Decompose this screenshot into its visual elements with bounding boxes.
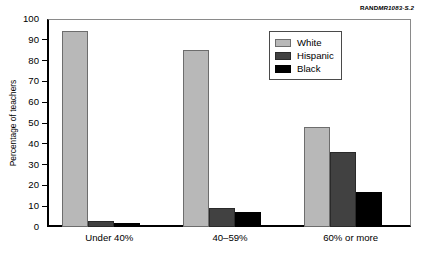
y-axis-tick-mark <box>42 164 47 165</box>
legend-swatch-white <box>275 39 291 47</box>
y-axis-tick: 90 <box>0 34 47 46</box>
y-axis-tick-mark <box>42 143 47 144</box>
y-axis-tick-mark <box>42 102 47 103</box>
legend-swatch-hispanic <box>275 52 291 60</box>
legend-item: White <box>275 36 334 49</box>
y-axis-tick-mark <box>42 39 47 40</box>
bar-chart-figure: RANDMR1083-S.2 Percentage of teachers 10… <box>0 0 426 253</box>
y-axis-tick-label: 10 <box>28 200 39 212</box>
y-axis-tick: 50 <box>0 117 47 129</box>
legend-item: Hispanic <box>275 49 334 62</box>
y-axis-tick: 70 <box>0 75 47 87</box>
y-axis-tick-label: 90 <box>28 34 39 46</box>
y-axis-tick: 10 <box>0 200 47 212</box>
y-axis-tick-mark <box>42 123 47 124</box>
source-code-label: RANDMR1083-S.2 <box>360 4 414 11</box>
y-axis-tick-label: 100 <box>23 13 39 25</box>
bars-layer <box>49 19 411 227</box>
bar-black <box>114 223 140 227</box>
bar-group <box>183 19 261 227</box>
x-axis-label: Under 40% <box>49 232 170 243</box>
y-axis-tick: 20 <box>0 179 47 191</box>
y-axis-tick-label: 70 <box>28 75 39 87</box>
bar-group <box>62 19 140 227</box>
bar-white <box>183 50 209 227</box>
bar-white <box>304 127 330 227</box>
y-axis-tick-mark <box>42 185 47 186</box>
y-axis-tick: 0 <box>0 221 47 233</box>
source-prefix: RAND <box>360 4 378 11</box>
y-axis-tick: 60 <box>0 96 47 108</box>
legend-swatch-black <box>275 65 291 73</box>
y-axis-tick-label: 0 <box>34 221 39 233</box>
y-axis-tick-label: 60 <box>28 96 39 108</box>
x-axis-label: 40–59% <box>170 232 291 243</box>
y-axis-tick-mark <box>42 206 47 207</box>
bar-hispanic <box>88 221 114 227</box>
legend-label: White <box>297 36 322 49</box>
y-axis-tick: 80 <box>0 55 47 67</box>
y-axis-tick-label: 20 <box>28 179 39 191</box>
legend-label: Black <box>297 62 320 75</box>
y-axis-tick-label: 30 <box>28 159 39 171</box>
chart-legend: WhiteHispanicBlack <box>269 31 342 80</box>
y-axis-tick-label: 50 <box>28 117 39 129</box>
y-axis-tick-mark <box>42 60 47 61</box>
y-axis-tick-label: 40 <box>28 138 39 150</box>
y-axis-tick-label: 80 <box>28 55 39 67</box>
y-axis-tick-mark <box>42 81 47 82</box>
y-axis-tick: 100 <box>0 13 47 25</box>
bar-white <box>62 31 88 227</box>
legend-item: Black <box>275 62 334 75</box>
bar-hispanic <box>209 208 235 227</box>
y-axis-tick: 40 <box>0 138 47 150</box>
x-axis-label: 60% or more <box>290 232 411 243</box>
y-axis-tick: 30 <box>0 159 47 171</box>
bar-black <box>235 212 261 227</box>
bar-black <box>356 192 382 227</box>
source-code: MR1083-S.2 <box>378 4 414 11</box>
legend-label: Hispanic <box>297 49 334 62</box>
bar-hispanic <box>330 152 356 227</box>
